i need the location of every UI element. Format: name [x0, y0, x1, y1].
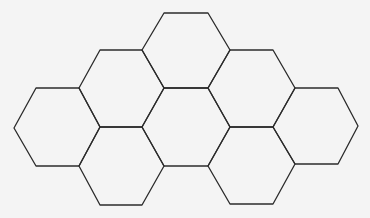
hexagon-far-left [14, 88, 100, 166]
hexagon-far-right [273, 88, 358, 164]
hexagon-upper-left [79, 50, 164, 127]
hexagon-top [142, 13, 230, 88]
hexagon-center [142, 88, 230, 166]
hexagon-lower-left [79, 127, 164, 205]
hexagon-diagram [0, 0, 370, 218]
hexagon-lower-right [208, 127, 295, 204]
hexagon-upper-right [208, 50, 295, 127]
